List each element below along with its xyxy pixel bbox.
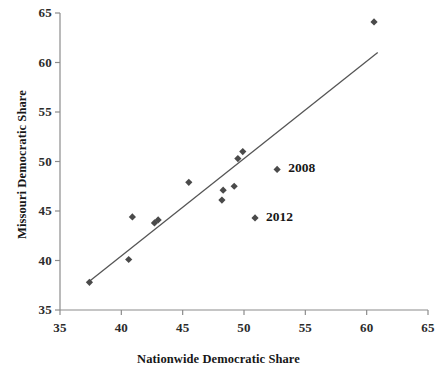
- y-axis-ticks: [55, 13, 60, 310]
- point-annotation-2012: 2012: [266, 209, 293, 225]
- data-point[interactable]: [231, 183, 238, 190]
- data-point[interactable]: [125, 256, 132, 263]
- y-axis-tick-label: 65: [10, 5, 52, 21]
- data-point[interactable]: [239, 148, 246, 155]
- x-axis-tick-label: 60: [347, 320, 387, 336]
- trend-line-segment: [89, 53, 377, 282]
- x-axis-tick-label: 55: [285, 320, 325, 336]
- x-axis-title: Nationwide Democratic Share: [0, 352, 437, 367]
- trend-line: [89, 53, 377, 282]
- x-axis-tick-label: 40: [101, 320, 141, 336]
- data-point[interactable]: [251, 214, 258, 221]
- y-axis-tick-label: 35: [10, 302, 52, 318]
- point-annotation-2008: 2008: [288, 160, 315, 176]
- data-point[interactable]: [218, 197, 225, 204]
- axis-lines: [60, 13, 428, 310]
- y-axis-title: Missouri Democratic Share: [15, 65, 30, 265]
- x-axis-ticks: [60, 310, 428, 315]
- data-point[interactable]: [185, 179, 192, 186]
- data-point[interactable]: [370, 18, 377, 25]
- x-axis-tick-label: 65: [408, 320, 437, 336]
- x-axis-tick-label: 45: [163, 320, 203, 336]
- data-point[interactable]: [220, 187, 227, 194]
- data-point-markers: [86, 18, 378, 286]
- data-point[interactable]: [274, 166, 281, 173]
- scatter-chart: 35404550556065 35404550556065 20082012 N…: [0, 0, 437, 375]
- plot-area: [0, 0, 437, 375]
- x-axis-tick-label: 35: [40, 320, 80, 336]
- data-point[interactable]: [129, 213, 136, 220]
- x-axis-tick-label: 50: [224, 320, 264, 336]
